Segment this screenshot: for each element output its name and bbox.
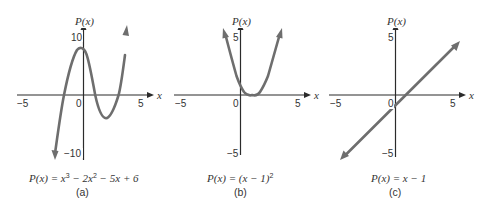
- curve-arrow-left-icon: [223, 28, 230, 39]
- panel-c: P(x) x −5 0 5 5 −5 P(x) = x − 1 (c): [329, 15, 474, 198]
- equation-c: P(x) = x − 1: [370, 172, 426, 185]
- y-axis-label-b: P(x): [231, 15, 251, 28]
- y-axis-label-c: P(x): [386, 15, 406, 28]
- x-tick-5-c: 5: [450, 98, 456, 109]
- x-tick-neg5-a: −5: [17, 98, 29, 109]
- x-axis-label-a: x: [156, 89, 162, 101]
- y-tick-neg5-b: −5: [227, 148, 239, 159]
- y-tick-neg5-c: −5: [382, 148, 394, 159]
- x-axis-arrow-icon: [147, 92, 154, 98]
- equation-a: P(x) = x3 − 2x2 − 5x + 6: [28, 172, 139, 185]
- x-tick-5-a: 5: [138, 98, 144, 109]
- figure: P(x) x −5 0 5 10 −10 P(x) = x3 − 2x2 − 5…: [0, 0, 484, 209]
- x-tick-neg5-c: −5: [330, 98, 342, 109]
- x-axis-arrow-icon: [304, 92, 311, 98]
- curve-arrow-up-icon: [123, 25, 130, 36]
- x-tick-neg5-b: −5: [175, 98, 187, 109]
- curve-arrow-down-icon: [52, 150, 59, 160]
- panel-a: P(x) x −5 0 5 10 −10 P(x) = x3 − 2x2 − 5…: [17, 15, 162, 198]
- x-axis-label-b: x: [313, 89, 319, 101]
- origin-label-a: 0: [76, 98, 82, 109]
- y-tick-5-b: 5: [233, 32, 239, 43]
- y-tick-neg10-a: −10: [64, 148, 81, 159]
- x-axis-arrow-icon: [459, 92, 466, 98]
- curve-arrow-right-icon: [276, 28, 283, 39]
- x-axis-label-c: x: [468, 89, 474, 101]
- x-tick-5-b: 5: [295, 98, 301, 109]
- line-c: [345, 46, 455, 156]
- caption-b: (b): [234, 186, 247, 198]
- y-tick-10-a: 10: [71, 32, 83, 43]
- curve-b: [226, 37, 279, 95]
- y-tick-5-c: 5: [388, 32, 394, 43]
- curve-a: [55, 48, 125, 151]
- equation-b: P(x) = (x − 1)2: [206, 172, 273, 185]
- caption-c: (c): [389, 186, 401, 198]
- origin-label-b: 0: [233, 98, 239, 109]
- origin-label-c: 0: [388, 98, 394, 109]
- panel-b: P(x) x −5 0 5 5 −5 P(x) = (x − 1)2 (b): [174, 15, 319, 198]
- caption-a: (a): [76, 186, 89, 198]
- y-axis-label-a: P(x): [74, 15, 94, 28]
